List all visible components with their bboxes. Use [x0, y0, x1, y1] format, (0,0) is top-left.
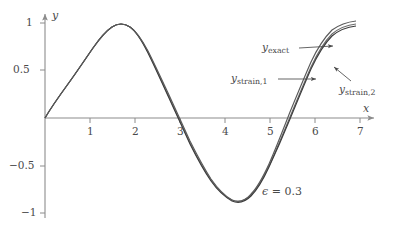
plot-canvas: [0, 0, 398, 225]
y-tick-label-1: 1: [26, 17, 33, 28]
y-tick-label-neg-1: −1: [21, 207, 36, 218]
callout-sub-y-exact: exact: [268, 46, 289, 55]
x-tick-marks: [90, 118, 360, 123]
y-tick-label-neg-0.5: −0.5: [9, 160, 35, 171]
epsilon-equals: =: [272, 185, 281, 198]
x-tick-label-6: 6: [312, 126, 319, 137]
x-tick-label-3: 3: [177, 126, 184, 137]
x-tick-label-4: 4: [222, 126, 229, 137]
epsilon-symbol: ϵ: [262, 185, 268, 198]
callout-sub-y-strain-2: strain,2: [345, 88, 375, 97]
x-tick-label-1: 1: [87, 126, 94, 137]
y-tick-label-0.5: 0.5: [13, 64, 30, 75]
leader-y-exact: [299, 46, 333, 48]
y-tick-marks: [40, 23, 45, 213]
curve-y-strain-1: [45, 21, 356, 201]
x-tick-label-5: 5: [267, 126, 274, 137]
x-tick-label-2: 2: [132, 126, 139, 137]
x-axis-label: x: [363, 103, 369, 114]
epsilon-annotation: ϵ = 0.3: [262, 186, 302, 197]
x-tick-label-7: 7: [357, 126, 364, 137]
callout-label-y-strain-2: ystrain,2: [339, 84, 375, 95]
callout-sub-y-strain-1: strain,1: [237, 77, 267, 86]
y-axis-label: y: [52, 10, 58, 21]
epsilon-value: 0.3: [284, 185, 302, 198]
callout-label-y-strain-1: ystrain,1: [231, 73, 267, 84]
callout-label-y-exact: yexact: [262, 42, 289, 53]
leader-y-strain-2: [334, 67, 351, 81]
curve-group: [45, 21, 356, 202]
